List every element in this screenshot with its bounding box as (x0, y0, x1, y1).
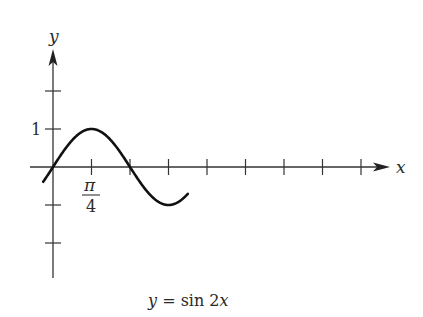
y-axis-label: y (48, 26, 59, 46)
chart-canvas: y x 1 π 4 y = sin 2x (0, 0, 423, 317)
chart-caption: y = sin 2x (147, 291, 229, 310)
x-tick-label-pi: π (83, 175, 96, 195)
x-axis-label: x (396, 157, 406, 177)
x-tick-label-denominator: 4 (86, 197, 96, 216)
y-tick-label-1: 1 (31, 120, 41, 139)
